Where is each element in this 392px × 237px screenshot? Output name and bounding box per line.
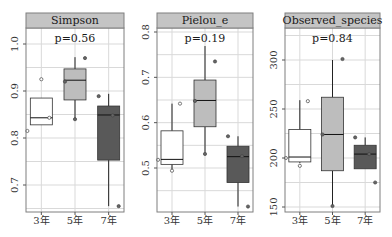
data-point [111, 114, 114, 117]
x-tick-label: 3年 [292, 214, 308, 226]
p-value-annotation: p=0.19 [185, 32, 226, 45]
data-point [178, 102, 181, 105]
data-point [193, 99, 196, 102]
boxplot-figure: Simpsonp=0.560.70.80.91.03年5年7年Pielou_ep… [0, 0, 392, 237]
y-tick-label: 150 [268, 197, 279, 216]
box-body [98, 106, 120, 160]
data-point [213, 60, 216, 63]
x-tick-label: 5年 [324, 214, 340, 226]
y-tick-label: 0.5 [140, 160, 151, 176]
x-tick-label: 3年 [33, 214, 49, 226]
data-point [40, 78, 43, 81]
data-point [240, 155, 243, 158]
data-point [63, 80, 66, 83]
facet-title: Simpson [51, 14, 99, 27]
panel-pielou_e: Pielou_ep=0.190.50.60.70.83年5年7年 [140, 13, 253, 226]
data-point [374, 181, 377, 184]
x-tick-label: 5年 [197, 214, 213, 226]
y-tick-label: 0.7 [140, 69, 151, 85]
x-tick-label: 3年 [164, 214, 180, 226]
y-tick-label: 1.0 [9, 36, 20, 52]
data-point [354, 136, 357, 139]
data-point [170, 169, 173, 172]
y-tick-label: 0.8 [140, 24, 151, 40]
x-tick-label: 5年 [67, 214, 83, 226]
x-tick-label: 7年 [100, 214, 116, 226]
data-point [341, 57, 344, 60]
data-point [97, 95, 100, 98]
p-value-annotation: p=0.56 [55, 32, 96, 45]
data-point [368, 152, 371, 155]
x-tick-label: 7年 [357, 214, 373, 226]
box-body [354, 145, 376, 169]
box-body [194, 80, 216, 127]
data-point [73, 118, 76, 121]
data-point [321, 133, 324, 136]
y-tick-label: 0.6 [140, 115, 151, 131]
data-point [48, 116, 51, 119]
box-body [64, 69, 86, 100]
data-point [226, 135, 229, 138]
data-point [117, 205, 120, 208]
y-tick-label: 250 [268, 99, 279, 118]
panel-simpson: Simpsonp=0.560.70.80.91.03年5年7年 [9, 13, 124, 226]
facet-title: Observed_species [283, 14, 383, 27]
panel-observed_species: Observed_speciesp=0.841502002503003年5年7年 [268, 13, 383, 226]
box-body [30, 98, 52, 125]
data-point [246, 205, 249, 208]
y-tick-label: 200 [268, 148, 279, 167]
y-tick-label: 0.9 [9, 83, 20, 99]
y-tick-label: 300 [268, 50, 279, 69]
facet-title: Pielou_e [182, 14, 229, 27]
data-point [331, 204, 334, 207]
data-point [298, 164, 301, 167]
y-tick-label: 0.7 [9, 177, 20, 193]
x-tick-label: 7年 [230, 214, 246, 226]
data-point [306, 100, 309, 103]
box-body [227, 146, 249, 182]
y-tick-label: 0.8 [9, 130, 20, 146]
p-value-annotation: p=0.84 [312, 32, 353, 45]
data-point [203, 152, 206, 155]
data-point [83, 57, 86, 60]
